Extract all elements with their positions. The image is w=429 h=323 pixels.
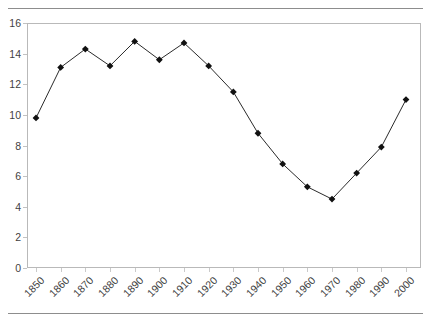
- line-chart: 0246810121416 18501860187018801890190019…: [0, 0, 429, 323]
- x-axis-tick-mark: [36, 268, 37, 272]
- x-axis-tick-mark: [283, 268, 284, 272]
- x-axis-tick-mark: [233, 268, 234, 272]
- x-axis-tick-mark: [307, 268, 308, 272]
- x-axis-tick-mark: [332, 268, 333, 272]
- x-axis-tick-mark: [135, 268, 136, 272]
- x-axis-tick-mark: [381, 268, 382, 272]
- x-axis-tick-mark: [357, 268, 358, 272]
- x-axis-tick-mark: [209, 268, 210, 272]
- x-axis-tick-mark: [159, 268, 160, 272]
- x-axis-labels: 1850186018701880189019001910192019301940…: [0, 0, 429, 323]
- x-axis-tick-mark: [85, 268, 86, 272]
- x-axis-tick-mark: [406, 268, 407, 272]
- x-axis-tick-mark: [258, 268, 259, 272]
- x-axis-tick-mark: [61, 268, 62, 272]
- x-axis-tick-mark: [184, 268, 185, 272]
- x-axis-tick-mark: [110, 268, 111, 272]
